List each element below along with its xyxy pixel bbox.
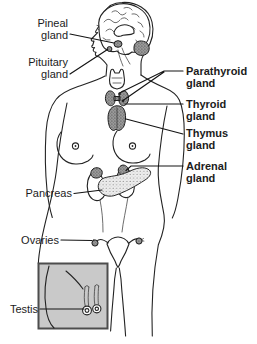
label-testis: Testis (10, 303, 39, 315)
left-ovary-shape (92, 240, 98, 246)
parathyroid-leader-line (120, 71, 184, 101)
label-parathyroid-gland-2: gland (186, 77, 215, 89)
label-adrenal-gland: Adrenal (186, 160, 227, 172)
label-thyroid-gland-2: gland (186, 110, 215, 122)
right-shoulder-arm (141, 75, 184, 218)
larynx (109, 69, 124, 89)
left-breast (57, 132, 93, 164)
abdominal-organs (87, 165, 150, 232)
right-ovary-shape (136, 238, 142, 244)
right-torso-leg (152, 106, 167, 336)
label-pineal-gland-2: gland (41, 29, 68, 41)
pineal-gland-shape (114, 41, 122, 48)
label-thyroid-gland: Thyroid (186, 98, 226, 110)
label-pituitary-gland-2: gland (41, 68, 68, 80)
endocrine-diagram: Pineal gland Pituitary gland Parathyroid… (0, 0, 257, 344)
ureters (100, 197, 128, 232)
ovaries-leader-line (61, 240, 92, 241)
label-thymus-gland-2: gland (186, 139, 215, 151)
inner-legs (111, 268, 126, 336)
left-testis-shape (83, 306, 92, 315)
right-testis-shape (93, 305, 101, 313)
label-adrenal-gland-2: gland (186, 172, 215, 184)
right-nipple-dot (132, 145, 134, 147)
left-adrenal-gland-shape (91, 168, 102, 178)
label-pineal-gland: Pineal (37, 17, 68, 29)
neck-organs (105, 69, 128, 130)
label-ovaries: Ovaries (21, 234, 59, 246)
label-pituitary-gland: Pituitary (28, 56, 68, 68)
pituitary-leader-line (70, 50, 108, 75)
right-breast (113, 131, 150, 163)
left-nipple-dot (75, 145, 77, 147)
uterus (107, 237, 129, 268)
testis-inset-box (39, 264, 108, 329)
thymus-leader-line (126, 119, 183, 134)
diagram-canvas: Pineal gland Pituitary gland Parathyroid… (0, 0, 257, 344)
label-pancreas: Pancreas (26, 187, 73, 199)
label-parathyroid-gland: Parathyroid (186, 65, 247, 77)
label-thymus-gland: Thymus (186, 127, 228, 139)
cerebellum (134, 41, 149, 55)
